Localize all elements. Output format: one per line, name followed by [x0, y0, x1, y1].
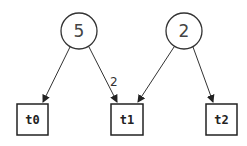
arc-weight-label: 2 [110, 75, 118, 89]
arc-p1-t1 [138, 47, 174, 102]
place-token-count: 2 [179, 21, 190, 41]
transition-t1[interactable]: t1 [111, 104, 143, 135]
transition-t0[interactable]: t0 [17, 104, 48, 135]
place-token-count: 5 [74, 21, 85, 41]
arc-p0-t1: 2 [89, 47, 118, 102]
transition-label: t1 [120, 113, 134, 127]
transition-label: t2 [214, 113, 228, 127]
place-p0[interactable]: 5 [61, 13, 97, 49]
place-p1[interactable]: 2 [166, 13, 202, 49]
arc-p1-t2 [193, 47, 213, 102]
arc-p0-t0 [43, 47, 70, 102]
transition-label: t0 [25, 113, 39, 127]
transition-t2[interactable]: t2 [206, 104, 237, 135]
petri-net-canvas: 2 5 2 t0 t1 t2 [0, 0, 247, 146]
